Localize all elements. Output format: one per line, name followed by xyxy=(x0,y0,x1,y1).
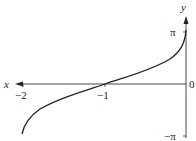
x-tick-label-neg1: −1 xyxy=(97,89,109,101)
y-axis-label: y xyxy=(180,1,186,13)
x-axis-label: x xyxy=(3,78,9,90)
y-tick-label-negpi: −π xyxy=(164,130,176,141)
chart-canvas: x y 0 −2 −1 π −π xyxy=(0,0,196,141)
x-tick-label-neg2: −2 xyxy=(15,89,27,101)
y-tick-label-pi: π xyxy=(170,26,176,38)
function-curve xyxy=(22,30,186,134)
x-axis-arrow-icon xyxy=(15,82,23,87)
y-axis-arrow-icon xyxy=(184,16,189,24)
origin-label: 0 xyxy=(189,78,195,90)
